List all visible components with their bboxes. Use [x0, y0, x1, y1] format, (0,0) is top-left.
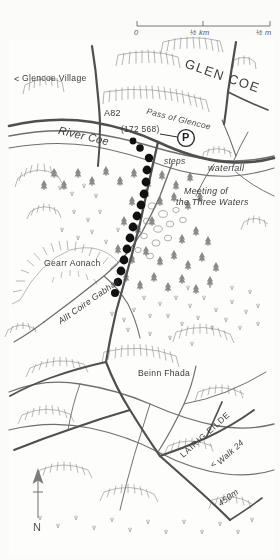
- north-arrow-icon: [0, 0, 280, 560]
- map-canvas[interactable]: 0 ½ km ½ m: [0, 0, 280, 560]
